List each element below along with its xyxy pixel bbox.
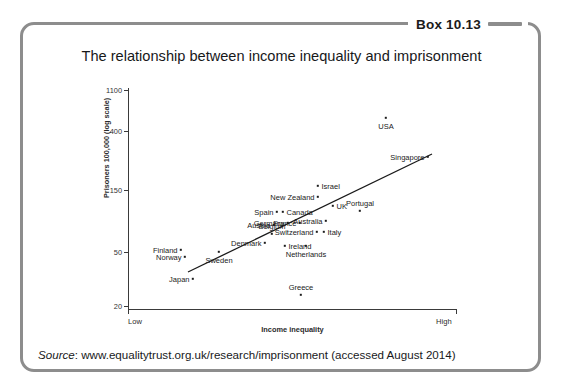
data-point-label: Japan xyxy=(169,275,189,284)
x-axis-tick-label: Low xyxy=(128,317,142,326)
box-number-tab: Box 10.13 xyxy=(408,13,528,35)
x-axis-tick-label: High xyxy=(436,317,452,326)
data-point xyxy=(385,117,387,119)
data-point-label: USA xyxy=(378,122,393,131)
y-axis-tick-mark xyxy=(124,252,129,253)
data-point-label: Denmark xyxy=(231,239,261,248)
data-point xyxy=(299,222,301,224)
data-point xyxy=(316,231,318,233)
data-point xyxy=(427,156,429,158)
data-point-label: Norway xyxy=(156,253,181,262)
box-tab-rule xyxy=(488,22,522,26)
y-axis-tick-mark xyxy=(124,306,129,307)
data-point xyxy=(359,210,361,212)
source-word: Source xyxy=(38,348,75,361)
data-point xyxy=(218,251,220,253)
data-point xyxy=(184,256,186,258)
data-point-label: Ireland xyxy=(289,242,312,251)
data-point-label: Singapore xyxy=(390,153,424,162)
source-footer: Source: www.equalitytrust.org.uk/researc… xyxy=(38,348,456,361)
data-point-label: Spain xyxy=(254,208,273,217)
data-point-label: Greece xyxy=(289,283,314,292)
data-point xyxy=(317,196,319,198)
y-axis-tick-label: 50 xyxy=(114,248,122,257)
data-point xyxy=(282,211,284,213)
y-axis-tick-mark xyxy=(124,131,129,132)
y-axis-tick-mark xyxy=(124,190,129,191)
x-axis-label: Income inequality xyxy=(128,325,457,334)
x-axis-tick-mark xyxy=(456,309,457,314)
data-point-label: Netherlands xyxy=(286,250,326,259)
data-point xyxy=(180,249,182,251)
data-point xyxy=(276,211,278,213)
y-axis-tick-label: 1100 xyxy=(106,86,122,95)
data-point xyxy=(323,231,325,233)
y-axis-tick-label: 20 xyxy=(114,302,122,311)
data-point xyxy=(300,294,302,296)
y-axis-tick-label: 150 xyxy=(110,186,122,195)
data-point-label: Portugal xyxy=(346,199,374,208)
data-point-label: New Zealand xyxy=(270,193,314,202)
data-point xyxy=(325,220,327,222)
page-root: Box 10.13 The relationship between incom… xyxy=(0,0,563,387)
box-number-label: Box 10.13 xyxy=(416,17,481,32)
data-point xyxy=(317,185,319,187)
data-point-label: Belgium xyxy=(258,222,285,231)
scatter-plot-area: 11004001505020LowHighUSASingaporeIsraelN… xyxy=(128,88,457,310)
y-axis-label: Prisoners 100,000 (log scale) xyxy=(102,98,111,198)
data-point-label: Israel xyxy=(322,182,340,191)
data-point xyxy=(271,233,273,235)
data-point xyxy=(332,205,334,207)
data-point-label: Sweden xyxy=(205,256,232,265)
data-point xyxy=(264,242,266,244)
data-point xyxy=(192,278,194,280)
data-point xyxy=(284,245,286,247)
y-axis-tick-label: 400 xyxy=(110,127,122,136)
y-axis-tick-mark xyxy=(124,90,129,91)
data-point-label: Australia xyxy=(293,217,322,226)
x-axis-tick-mark xyxy=(128,309,129,314)
source-url-text: : www.equalitytrust.org.uk/research/impr… xyxy=(75,348,456,361)
chart-title: The relationship between income inequali… xyxy=(0,48,563,64)
data-point-label: Italy xyxy=(328,228,342,237)
data-point-label: Canada xyxy=(287,208,313,217)
